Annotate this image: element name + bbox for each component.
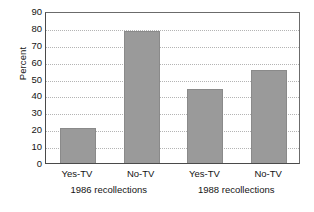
y-axis-tick-label: 70 (18, 41, 42, 51)
x-axis-tick-labels: Yes-TVNo-TVYes-TVNo-TV (45, 168, 300, 182)
x-axis-group-label: 1988 recollections (198, 184, 275, 196)
y-axis-tick-labels: 0102030405060708090 (18, 12, 42, 164)
y-axis-tick-label: 40 (18, 92, 42, 102)
y-axis-tick-label: 20 (18, 125, 42, 135)
x-axis-tick-label: No-TV (254, 168, 281, 180)
y-axis-tick-label: 30 (18, 109, 42, 119)
y-axis-tick-label: 90 (18, 7, 42, 17)
y-axis-tick-label: 60 (18, 58, 42, 68)
bar (251, 70, 287, 163)
plot-area (45, 12, 300, 164)
y-axis-tick-label: 10 (18, 142, 42, 152)
y-axis-tick-label: 50 (18, 75, 42, 85)
x-axis-tick-label: Yes-TV (189, 168, 220, 180)
y-axis-tick-label: 0 (18, 159, 42, 169)
x-axis-group-labels: 1986 recollections1988 recollections (45, 184, 300, 198)
x-axis-tick-label: Yes-TV (61, 168, 92, 180)
bar-chart-figure: Percent 0102030405060708090 Yes-TVNo-TVY… (0, 0, 314, 212)
x-axis-group-label: 1986 recollections (70, 184, 147, 196)
bar (60, 128, 96, 163)
bar (187, 89, 223, 163)
x-axis-tick-label: No-TV (127, 168, 154, 180)
y-axis-tick-label: 80 (18, 24, 42, 34)
bar (124, 31, 160, 163)
bar-series (46, 13, 299, 163)
